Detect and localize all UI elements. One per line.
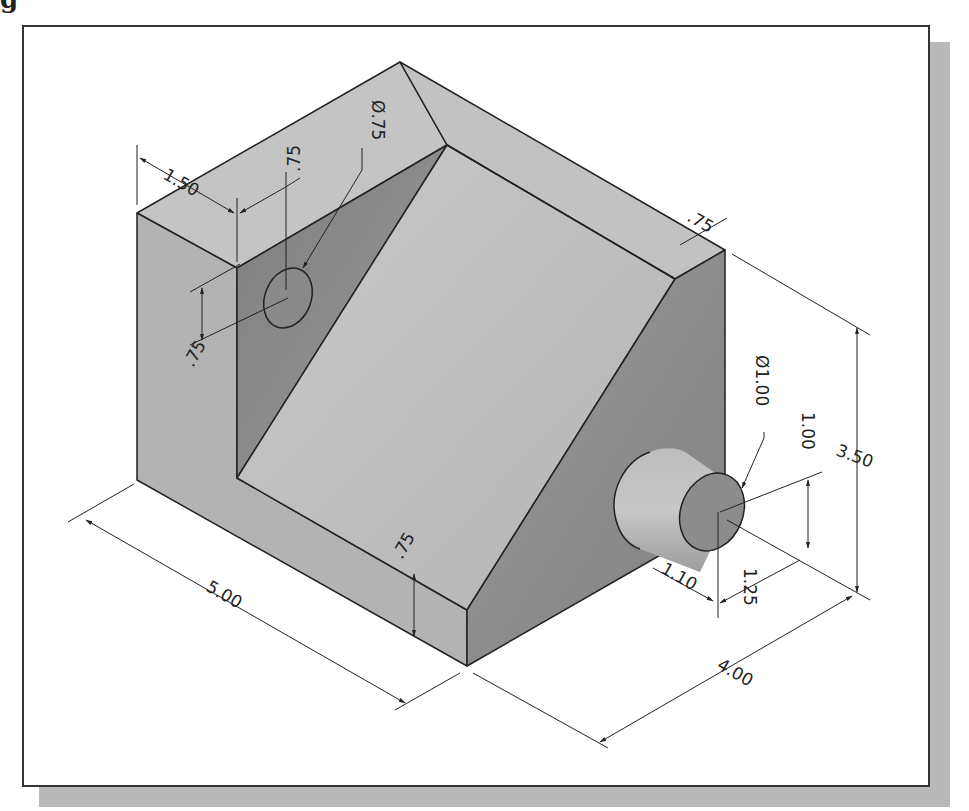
- dim-overall-height: 3.50: [834, 440, 876, 472]
- dim-hole-diameter: Ø.75: [368, 100, 388, 140]
- dim-overall-width: 4.00: [714, 654, 757, 690]
- part-body: [137, 62, 725, 666]
- dim-overall-length: 5.00: [203, 576, 246, 612]
- dim-boss-height: 1.00: [798, 412, 818, 450]
- isometric-part-drawing: 1.50 .75 Ø.75 .75 .75 5.00 .75 4.00 3.50…: [0, 0, 969, 811]
- dim-boss-diameter: Ø1.00: [752, 355, 772, 406]
- drawing-stage: g: [0, 0, 969, 811]
- dim-hole-offset-top: .75: [284, 145, 304, 172]
- dim-boss-offset: 1.25: [740, 568, 760, 606]
